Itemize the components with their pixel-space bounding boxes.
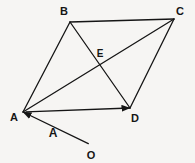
side-BC [70, 19, 174, 22]
vertex-label-A: A [10, 112, 18, 123]
side-AB [23, 22, 70, 112]
diagram-canvas [0, 0, 195, 163]
vertex-label-B: B [60, 6, 68, 17]
vertex-label-E: E [97, 48, 104, 59]
vector-label-A: A [49, 128, 58, 139]
side-AD [26, 108, 130, 112]
geometry-figure: A B C D E O A [0, 0, 195, 163]
vertex-label-C: C [176, 6, 184, 17]
vertex-label-D: D [131, 113, 139, 124]
diagonal-BD [70, 22, 130, 108]
vertex-label-O: O [87, 150, 96, 161]
